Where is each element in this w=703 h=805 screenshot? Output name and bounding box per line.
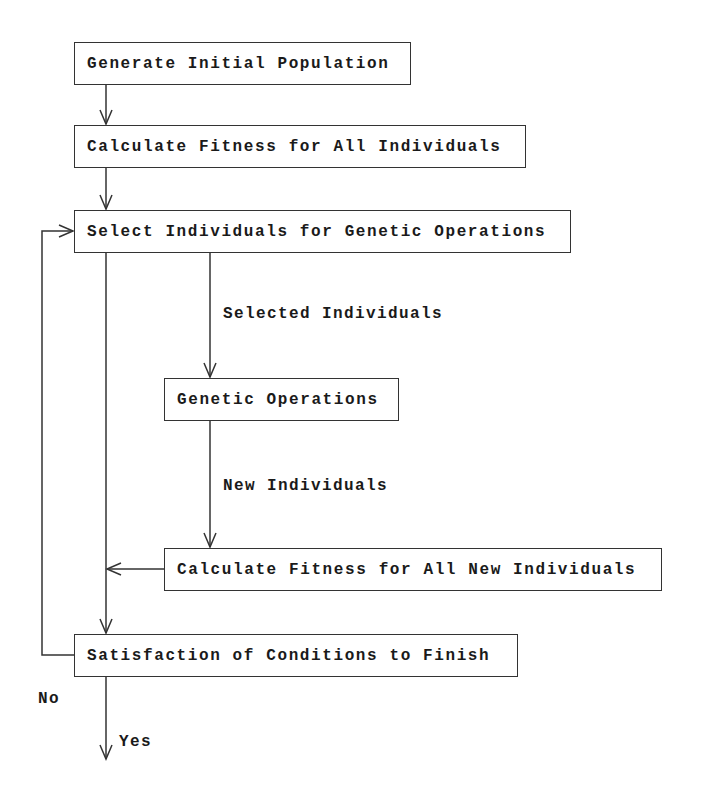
node-select-individuals: Select Individuals for Genetic Operation… <box>74 210 571 253</box>
node-calculate-fitness: Calculate Fitness for All Individuals <box>74 125 526 168</box>
edge-label-new-individuals: New Individuals <box>223 477 388 495</box>
node-satisfaction-conditions: Satisfaction of Conditions to Finish <box>74 634 518 677</box>
edge-label-selected-individuals: Selected Individuals <box>223 305 443 323</box>
node-genetic-operations: Genetic Operations <box>164 378 399 421</box>
node-generate-initial-population: Generate Initial Population <box>74 42 411 85</box>
edge-label-no: No <box>38 690 60 708</box>
edge-label-yes: Yes <box>119 733 152 751</box>
node-calculate-fitness-new: Calculate Fitness for All New Individual… <box>164 548 662 591</box>
